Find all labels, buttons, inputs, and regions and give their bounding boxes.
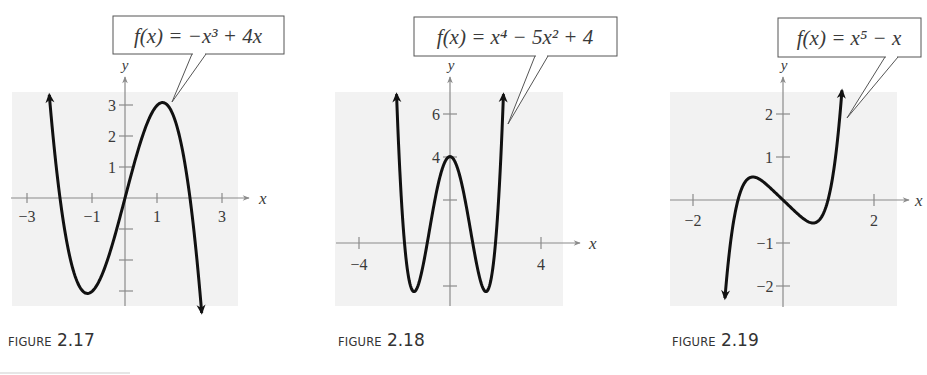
caption-word: FIGURE [338, 335, 382, 349]
y-tick-label: −1 [756, 235, 773, 252]
equation-label: f(x) = x⁴ − 5x² + 4 [437, 25, 594, 49]
caption-number: 2.17 [57, 330, 95, 350]
plots-canvas: −3 −1 1 3 3 2 1 x y f(x) = −x³ + 4x [0, 0, 927, 375]
x-axis-label: x [258, 189, 267, 208]
figure-2-19: −2 2 2 1 −1 −2 x y f(x) = x⁵ − x [670, 18, 923, 307]
x-tick-label: 1 [153, 208, 161, 225]
y-tick-label: 1 [765, 149, 773, 166]
y-axis-label: y [779, 57, 788, 73]
x-tick-label: 4 [537, 256, 545, 273]
figure-strip: −3 −1 1 3 3 2 1 x y f(x) = −x³ + 4x [0, 0, 927, 375]
equation-label: f(x) = −x³ + 4x [134, 24, 263, 48]
figure-caption: FIGURE 2.19 [672, 330, 759, 350]
figure-2-18: −4 4 6 4 x y f(x) = x⁴ − 5x² + 4 [335, 17, 617, 306]
figure-2-17: −3 −1 1 3 3 2 1 x y f(x) = −x³ + 4x [11, 16, 284, 313]
caption-number: 2.18 [387, 330, 425, 350]
figure-caption: FIGURE 2.18 [338, 330, 425, 350]
y-tick-label: 2 [108, 128, 116, 145]
y-tick-label: 3 [108, 97, 116, 114]
plot-background [335, 92, 563, 306]
x-axis-label: x [588, 234, 597, 253]
caption-number: 2.19 [721, 330, 759, 350]
x-tick-label: 3 [218, 208, 226, 225]
x-tick-label: −3 [18, 208, 35, 225]
y-tick-label: 4 [432, 149, 440, 166]
x-tick-label: −4 [350, 256, 367, 273]
figure-caption: FIGURE 2.17 [8, 330, 95, 350]
y-tick-label: −2 [756, 278, 773, 295]
x-tick-label: 2 [870, 212, 878, 229]
y-axis-label: y [120, 57, 129, 73]
equation-label: f(x) = x⁵ − x [797, 26, 902, 50]
y-tick-label: 2 [765, 106, 773, 123]
caption-word: FIGURE [8, 335, 52, 349]
caption-word: FIGURE [672, 335, 716, 349]
x-tick-label: −1 [83, 208, 100, 225]
x-axis-label: x [914, 191, 923, 210]
x-tick-label: −2 [684, 212, 701, 229]
y-tick-label: 1 [108, 159, 116, 176]
y-axis-label: y [446, 57, 455, 73]
y-tick-label: 6 [432, 106, 440, 123]
